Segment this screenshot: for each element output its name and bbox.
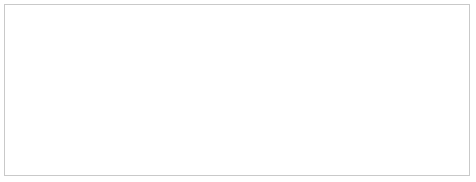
figure-root bbox=[0, 0, 476, 182]
venn-diagram bbox=[0, 0, 476, 182]
